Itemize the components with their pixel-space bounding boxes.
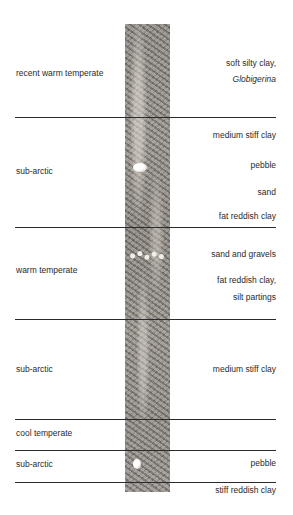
climate-label: sub-arctic (16, 166, 53, 176)
zone-divider-2 (15, 227, 276, 228)
zone-divider-1 (15, 117, 276, 118)
sediment-label: sand and gravels (211, 249, 276, 259)
sediment-label: medium stiff clay (213, 130, 276, 140)
zone-divider-6 (15, 482, 276, 483)
sediment-label: silt partings (233, 292, 276, 302)
sediment-label: Globigerina (233, 74, 276, 84)
gravel-cluster (129, 250, 165, 262)
sediment-label: fat reddish clay, (217, 275, 276, 285)
sediment-label: soft silty clay, (226, 58, 276, 68)
zone-divider-4 (15, 419, 276, 420)
pebble-upper (133, 163, 147, 172)
sediment-label: sand (258, 187, 276, 197)
sediment-label: stiff reddish clay (215, 485, 276, 495)
pebble-lower (133, 459, 141, 469)
climate-label: warm temperate (16, 265, 77, 275)
zone-divider-3 (15, 319, 276, 320)
climate-label: sub-arctic (16, 459, 53, 469)
climate-label: cool temperate (16, 428, 72, 438)
sediment-label: medium stiff clay (213, 364, 276, 374)
climate-label: recent warm temperate (16, 68, 103, 78)
sediment-label: pebble (250, 458, 276, 468)
climate-label: sub-arctic (16, 364, 53, 374)
sediment-label: pebble (250, 160, 276, 170)
sediment-label: fat reddish clay (219, 211, 276, 221)
zone-divider-5 (15, 450, 276, 451)
